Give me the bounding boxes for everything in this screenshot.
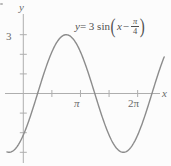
pi-over-4-fraction: π4	[131, 17, 139, 36]
equation-label: y = 3 sin(x − π4)	[75, 14, 145, 38]
sine-function-figure: y x 3 π 2π y = 3 sin(x − π4)	[0, 0, 171, 166]
open-paren: (	[110, 14, 116, 39]
equation-minus-sign: −	[123, 20, 129, 32]
fraction-denominator-4: 4	[131, 26, 139, 36]
equation-equals-coeff: = 3 sin	[80, 20, 110, 32]
y-tick-label-3: 3	[6, 31, 12, 42]
equation-x-var: x	[117, 20, 122, 32]
x-axis-label: x	[162, 88, 167, 99]
y-axis-label: y	[19, 2, 24, 13]
close-paren: )	[139, 14, 145, 39]
x-tick-label-2pi: 2π	[128, 98, 139, 109]
x-tick-label-pi: π	[74, 98, 80, 109]
fraction-numerator-pi: π	[133, 17, 137, 26]
exercise-number-fragment	[0, 3, 3, 5]
